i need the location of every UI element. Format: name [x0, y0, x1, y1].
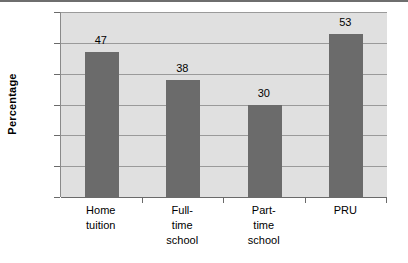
bar-1[interactable]	[166, 80, 200, 197]
y-axis-title: Percentage	[6, 44, 18, 164]
x-category-label-line: time	[136, 218, 228, 233]
x-category-label-1: Full-timeschool	[136, 203, 228, 248]
bar-value-label-2: 30	[244, 87, 284, 99]
x-category-label-line: school	[218, 233, 310, 248]
x-category-label-0: Hometuition	[55, 203, 147, 233]
x-category-label-line: PRU	[299, 203, 391, 218]
gridline-0	[61, 197, 387, 198]
bar-3[interactable]	[329, 34, 363, 197]
top-border-rule	[0, 0, 408, 2]
x-category-label-line: time	[218, 218, 310, 233]
x-category-label-line: Home	[55, 203, 147, 218]
bar-value-label-0: 47	[81, 34, 121, 46]
x-category-label-2: Part-timeschool	[218, 203, 310, 248]
x-category-label-3: PRU	[299, 203, 391, 218]
x-category-label-line: Part-	[218, 203, 310, 218]
gridline-60	[61, 12, 387, 13]
bar-value-label-3: 53	[325, 16, 365, 28]
y-tick-mark-0	[54, 197, 60, 198]
bar-chart-figure: Percentage 0102030405060 47383053 Hometu…	[0, 0, 408, 263]
x-category-label-line: tuition	[55, 218, 147, 233]
x-category-label-line: school	[136, 233, 228, 248]
bar-0[interactable]	[85, 52, 119, 197]
bar-value-label-1: 38	[162, 62, 202, 74]
bar-2[interactable]	[248, 105, 282, 198]
x-category-label-line: Full-	[136, 203, 228, 218]
